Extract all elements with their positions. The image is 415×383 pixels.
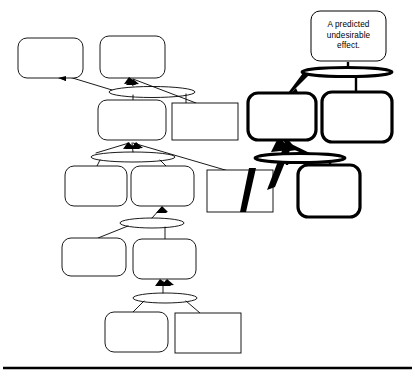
cause-rect-row5-right[interactable] [175, 313, 241, 353]
injection-box-bold-bottom[interactable] [298, 165, 360, 217]
arrowhead-row3mid-overlay [156, 206, 168, 213]
effect-box-row4-middle[interactable] [133, 239, 196, 279]
and-connector-row3[interactable] [91, 152, 175, 162]
and-connector-row2[interactable] [109, 87, 195, 98]
effect-box-row5-left[interactable] [105, 312, 168, 352]
diagram-canvas: A predicted undesirable effect. [0, 0, 415, 383]
and-connector-bold-top[interactable] [302, 68, 392, 77]
logic-tree-svg [0, 0, 415, 383]
and-connector-row4[interactable] [120, 218, 184, 228]
and-connector-bold-bottom[interactable] [255, 154, 345, 163]
effect-box-row3-middle[interactable] [131, 166, 194, 206]
injection-box-bold-right[interactable] [322, 92, 392, 142]
line-rect2-to-topmid [133, 79, 196, 103]
effect-box-row3-left[interactable] [65, 166, 127, 206]
stem-ellipse3-row3left [97, 160, 100, 166]
effect-box-row4-left[interactable] [62, 238, 126, 276]
effect-box-top-left[interactable] [18, 38, 83, 78]
cause-rect-row2-right[interactable] [172, 103, 238, 140]
line-ellipse5-to-row5left [133, 301, 144, 312]
injection-box-bold-left[interactable] [248, 93, 316, 140]
line-ellipse4-to-row4left [98, 226, 128, 238]
effect-box-row2-left[interactable] [98, 100, 166, 140]
and-connector-row5[interactable] [133, 293, 197, 303]
cause-rect-row3-right[interactable] [207, 170, 273, 212]
line-ellipse5-to-row5rect [186, 301, 200, 313]
effect-box-top-middle[interactable] [100, 36, 165, 78]
predicted-effect-box[interactable] [311, 11, 386, 61]
